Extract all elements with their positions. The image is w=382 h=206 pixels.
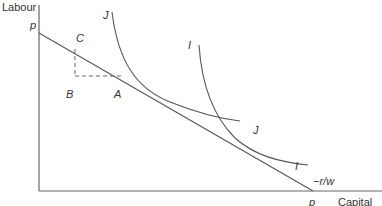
- isoquant-j: [112, 12, 240, 121]
- y-axis-label: Labour: [2, 2, 36, 13]
- slope-label: −r/w: [313, 176, 334, 187]
- budget-y-intercept-label: p: [30, 20, 36, 31]
- curve-j-bottom-label: J: [253, 125, 259, 136]
- curve-j-top-label: J: [103, 10, 109, 21]
- curve-i-top-label: I: [188, 40, 191, 51]
- x-axis-label: Capital: [338, 197, 372, 206]
- budget-line: [39, 33, 313, 191]
- isoquant-diagram: Labour Capital p p −r/w C B A J J I I: [0, 0, 382, 206]
- point-b-label: B: [66, 89, 73, 100]
- curve-i-bottom-label: I: [295, 161, 298, 172]
- budget-x-intercept-label: p: [309, 197, 315, 206]
- point-c-label: C: [76, 33, 84, 44]
- point-a-label: A: [114, 89, 121, 100]
- isoquant-i: [199, 45, 308, 165]
